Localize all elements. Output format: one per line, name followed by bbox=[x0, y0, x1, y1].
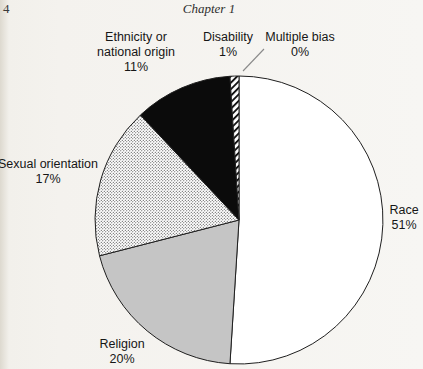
slice-label-disability-line1: Disability bbox=[203, 30, 253, 45]
slice-label-ethnicity-line1: Ethnicity or bbox=[97, 30, 175, 45]
slice-label-sexual-orientation-value: 17% bbox=[0, 172, 98, 187]
slice-label-ethnicity-line2: national origin bbox=[97, 45, 175, 60]
slice-label-religion-value: 20% bbox=[99, 352, 144, 367]
slice-label-race: Race 51% bbox=[389, 203, 418, 233]
slice-label-multiple-bias: Multiple bias 0% bbox=[265, 30, 334, 60]
slice-label-race-line1: Race bbox=[389, 203, 418, 218]
slice-label-ethnicity: Ethnicity or national origin 11% bbox=[97, 30, 175, 75]
slice-label-disability-value: 1% bbox=[203, 45, 253, 60]
slice-label-religion: Religion 20% bbox=[99, 337, 144, 367]
slice-label-sexual-orientation-line1: Sexual orientation bbox=[0, 157, 98, 172]
slice-label-multiple-bias-value: 0% bbox=[265, 45, 334, 60]
slice-label-race-value: 51% bbox=[389, 218, 418, 233]
book-page: 4 Chapter 1 Ethnicity or national origin… bbox=[0, 0, 423, 369]
slice-label-ethnicity-value: 11% bbox=[97, 60, 175, 75]
slice-label-religion-line1: Religion bbox=[99, 337, 144, 352]
slice-label-multiple-bias-line1: Multiple bias bbox=[265, 30, 334, 45]
slice-label-disability: Disability 1% bbox=[203, 30, 253, 60]
pie-slices bbox=[95, 76, 383, 364]
pie-slice-race bbox=[230, 76, 383, 364]
slice-label-sexual-orientation: Sexual orientation 17% bbox=[0, 157, 98, 187]
